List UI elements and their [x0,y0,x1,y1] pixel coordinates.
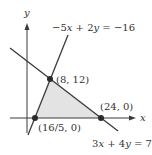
equation-label-2: 3x + 4y = 72 [92,138,152,149]
vertex-point-8-12 [47,76,53,82]
equation-label-1: −5x + 2y = −16 [52,22,135,33]
x-axis-arrow-icon [129,116,136,121]
point-label-24-0: (24, 0) [100,101,133,112]
point-label-16-5-0: (16/5, 0) [38,122,81,133]
point-label-8-12: (8, 12) [56,74,89,85]
y-axis-arrow-icon [25,23,30,30]
x-axis-label: x [140,112,146,123]
feasible-region-diagram: x y −5x + 2y = −16 3x + 4y = 72 (8, 12) … [0,0,152,155]
vertex-point-16-5-0 [32,115,38,121]
vertex-point-24-0 [98,115,104,121]
y-axis-label: y [23,7,30,18]
